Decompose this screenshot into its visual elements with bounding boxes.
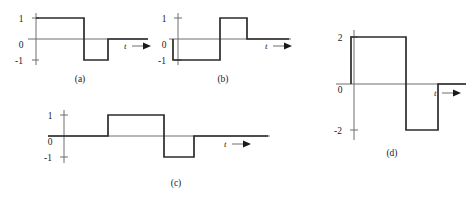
ytick-zero-c: 0 <box>48 137 53 147</box>
ytick-bottom-c: -1 <box>44 153 52 163</box>
ytick-bottom-a: -1 <box>15 56 23 66</box>
t-label-d: t <box>434 88 437 98</box>
panel-b: t 1 0 -1 <box>155 6 305 72</box>
t-arrow-head-a <box>143 43 151 50</box>
t-label-c: t <box>224 139 227 149</box>
panel-c: t 1 0 -1 <box>42 103 277 173</box>
ytick-bottom-b: -1 <box>158 56 166 66</box>
t-label-b: t <box>265 41 268 51</box>
t-label-a: t <box>124 41 127 51</box>
t-arrow-head-b <box>284 43 292 50</box>
ytick-zero-a: 0 <box>19 40 24 50</box>
panel-a: t 1 0 -1 <box>8 6 158 72</box>
ytick-top-c: 1 <box>48 111 53 121</box>
t-arrow-head-c <box>243 141 251 148</box>
caption-panel-c: (c) <box>156 178 196 188</box>
caption-panel-d: (d) <box>372 148 412 158</box>
ytick-zero-d: 0 <box>338 85 343 95</box>
t-arrow-head-d <box>453 90 461 97</box>
caption-panel-b: (b) <box>203 74 243 84</box>
ytick-top-a: 1 <box>19 14 24 24</box>
ytick-bottom-d: -2 <box>334 126 342 136</box>
panel-d: t 2 0 -2 <box>326 20 470 148</box>
ytick-top-b: 1 <box>162 14 167 24</box>
caption-panel-a: (a) <box>60 74 100 84</box>
ytick-zero-b: 0 <box>162 40 167 50</box>
ytick-top-d: 2 <box>338 33 343 43</box>
